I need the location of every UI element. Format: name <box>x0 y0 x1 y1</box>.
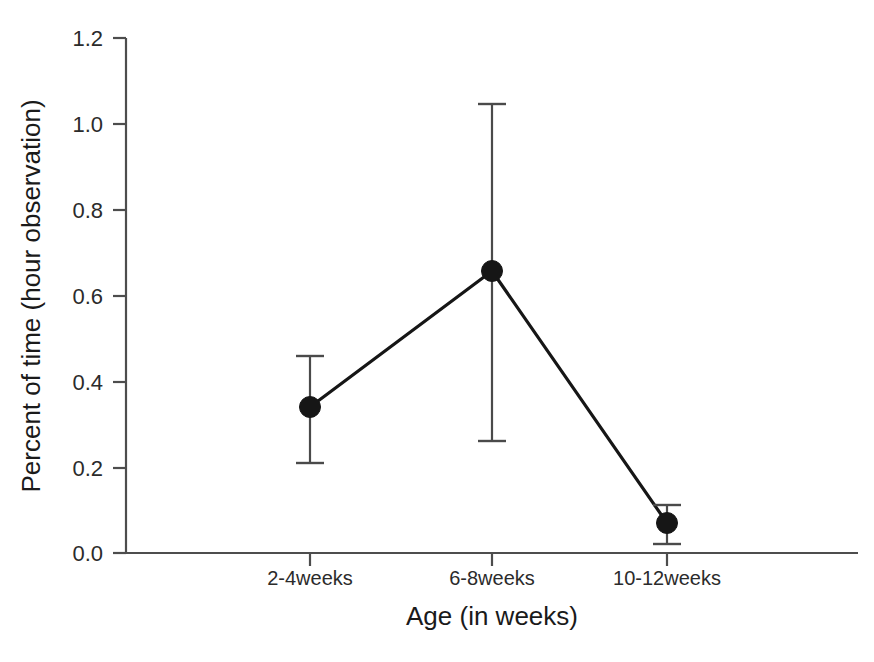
y-tick-label-0_8: 0.8 <box>72 198 103 223</box>
y-tick-label-1_2: 1.2 <box>72 26 103 51</box>
y-axis-tick-labels: 1.2 1.0 0.8 0.6 0.4 0.2 0.0 <box>72 26 103 566</box>
data-point-1 <box>300 397 321 418</box>
y-tick-label-0_2: 0.2 <box>72 456 103 481</box>
chart-figure: 1.2 1.0 0.8 0.6 0.4 0.2 0.0 2-4weeks 6-8… <box>0 0 874 662</box>
x-axis-ticks <box>310 553 667 566</box>
x-tick-label-3: 10-12weeks <box>613 567 721 589</box>
error-bar-group <box>296 104 681 544</box>
y-axis-title: Percent of time (hour observation) <box>16 99 46 492</box>
series-line-percent-of-time <box>310 271 667 523</box>
data-point-3 <box>657 513 678 534</box>
y-tick-label-0_0: 0.0 <box>72 541 103 566</box>
x-tick-label-2: 6-8weeks <box>449 567 535 589</box>
y-tick-label-0_4: 0.4 <box>72 370 103 395</box>
data-point-group <box>300 261 678 534</box>
data-point-2 <box>482 261 503 282</box>
y-tick-label-1_0: 1.0 <box>72 112 103 137</box>
x-axis-tick-labels: 2-4weeks 6-8weeks 10-12weeks <box>267 567 721 589</box>
y-tick-label-0_6: 0.6 <box>72 284 103 309</box>
line-chart-plot: 1.2 1.0 0.8 0.6 0.4 0.2 0.0 2-4weeks 6-8… <box>0 0 874 662</box>
x-axis-title: Age (in weeks) <box>406 601 578 631</box>
y-axis-ticks <box>113 38 126 553</box>
x-tick-label-1: 2-4weeks <box>267 567 353 589</box>
